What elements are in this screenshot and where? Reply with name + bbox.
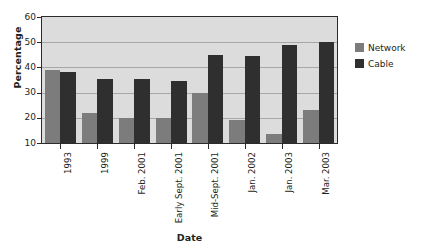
legend-swatch-icon xyxy=(355,43,364,52)
legend-label: Cable xyxy=(368,59,394,69)
legend-item: Cable xyxy=(355,57,427,70)
x-tick-label: Mar. 2003 xyxy=(322,152,331,195)
y-tick-label: 60 xyxy=(10,13,36,22)
bar-cable-0 xyxy=(60,72,76,143)
bar-network-7 xyxy=(303,110,319,143)
bar-network-1 xyxy=(82,113,98,143)
bar-cable-4 xyxy=(208,55,224,143)
legend-label: Network xyxy=(368,43,406,53)
x-tick-mark xyxy=(208,144,209,149)
x-tick-label: 1993 xyxy=(64,152,73,174)
bar-cable-6 xyxy=(282,45,298,143)
x-tick-mark xyxy=(60,144,61,149)
x-tick-mark xyxy=(134,144,135,149)
bar-cable-3 xyxy=(171,81,187,143)
bar-chart: Percentage 102030405060 19931999Feb. 200… xyxy=(0,0,427,251)
x-tick-mark xyxy=(97,144,98,149)
x-tick-mark xyxy=(319,144,320,149)
bar-cable-5 xyxy=(245,56,261,143)
y-tick-label: 40 xyxy=(10,63,36,72)
x-tick-label: Jan. 2003 xyxy=(285,152,294,193)
x-tick-mark xyxy=(245,144,246,149)
bar-cable-1 xyxy=(97,79,113,143)
x-tick-label: Mid-Sept. 2001 xyxy=(211,152,220,217)
bar-network-5 xyxy=(229,120,245,143)
x-tick-label: 1999 xyxy=(101,152,110,174)
x-axis-title: Date xyxy=(41,232,338,243)
x-tick-label: Early Sept. 2001 xyxy=(175,152,184,223)
x-tick-mark xyxy=(171,144,172,149)
y-tick-mark xyxy=(37,67,41,68)
y-tick-label: 10 xyxy=(10,139,36,148)
y-tick-mark xyxy=(37,17,41,18)
y-tick-label: 30 xyxy=(10,88,36,97)
bar-cable-7 xyxy=(319,42,335,143)
y-tick-label: 20 xyxy=(10,113,36,122)
x-tick-mark xyxy=(282,144,283,149)
bar-cable-2 xyxy=(134,79,150,143)
y-tick-mark xyxy=(37,93,41,94)
legend-item: Network xyxy=(355,41,427,54)
bar-network-6 xyxy=(266,134,282,143)
bar-network-2 xyxy=(119,118,135,143)
y-tick-mark xyxy=(37,42,41,43)
legend-swatch-icon xyxy=(355,59,364,68)
bar-network-4 xyxy=(192,93,208,143)
y-tick-label: 50 xyxy=(10,38,36,47)
bars-group xyxy=(42,17,337,143)
y-tick-mark xyxy=(37,143,41,144)
x-tick-label: Jan. 2002 xyxy=(248,152,257,193)
bar-network-0 xyxy=(45,70,61,143)
bar-network-3 xyxy=(156,118,172,143)
x-tick-label: Feb. 2001 xyxy=(138,152,147,195)
chart-legend: NetworkCable xyxy=(355,41,427,73)
y-tick-mark xyxy=(37,118,41,119)
